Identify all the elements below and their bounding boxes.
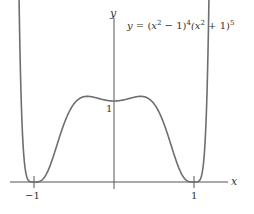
x-tick-label-pos1: 1: [191, 191, 197, 201]
eq-minus-one: − 1): [161, 20, 186, 31]
x-tick-label-neg1: −1: [25, 191, 40, 201]
eq-x2: (x: [191, 20, 201, 31]
equation-label: y = (x2 − 1)4(x2 + 1)5: [127, 20, 234, 31]
y-axis-label: y: [110, 8, 116, 19]
y-tick-label-1: 1: [106, 104, 112, 114]
plot-area: [0, 0, 254, 214]
eq-sup4: 5: [230, 19, 234, 27]
x-axis-label: x: [231, 176, 237, 187]
eq-equals: = (: [133, 20, 152, 31]
eq-plus-one: + 1): [205, 20, 230, 31]
